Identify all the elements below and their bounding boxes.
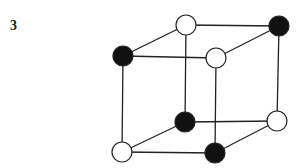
edge-bottom-front-left-to-bottom-front-right: [122, 152, 215, 153]
black-atom-bottom-front-right: [205, 143, 225, 163]
white-atom-top-front-right: [206, 48, 226, 68]
edge-top-back-left-to-bottom-back-left: [185, 25, 186, 122]
white-atom-bottom-back-right: [267, 111, 287, 131]
lattice-atoms: [112, 15, 289, 163]
edge-bottom-back-left-to-bottom-back-right: [185, 121, 277, 122]
edge-top-front-left-to-bottom-front-left: [122, 56, 123, 152]
black-atom-top-front-left: [113, 46, 133, 66]
black-atom-bottom-back-left: [175, 112, 195, 132]
edge-top-back-left-to-top-back-right: [186, 25, 279, 26]
edge-top-back-right-to-bottom-back-right: [277, 26, 279, 121]
black-atom-top-back-right: [269, 16, 289, 36]
white-atom-top-back-left: [176, 15, 196, 35]
edge-top-front-right-to-bottom-front-right: [215, 58, 216, 153]
white-atom-bottom-front-left: [112, 142, 132, 162]
edge-top-front-left-to-top-front-right: [123, 56, 216, 58]
lattice-edges: [122, 25, 279, 153]
cubic-lattice-diagram: [0, 0, 304, 168]
